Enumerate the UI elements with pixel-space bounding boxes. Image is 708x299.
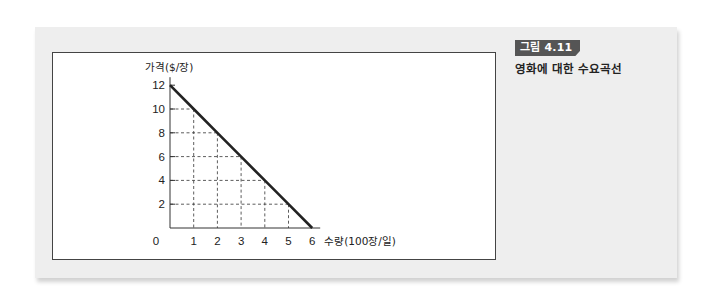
x-tick-label: 6 [309, 235, 315, 247]
chart-frame: 246810120123456 가격($/장) 수량(100장/일) [52, 52, 496, 260]
x-tick-label: 3 [238, 235, 244, 247]
x-axis-title: 수량(100장/일) [324, 235, 396, 247]
y-tick-label: 6 [159, 151, 165, 163]
y-axis-title: 가격($/장) [145, 61, 193, 73]
y-tick-label: 10 [152, 103, 165, 115]
figure-number-badge: 그림 4.11 [515, 40, 580, 56]
x-tick-label: 0 [153, 235, 159, 247]
figure-page: 246810120123456 가격($/장) 수량(100장/일) 그림 4.… [0, 0, 708, 299]
x-tick-label: 1 [190, 235, 196, 247]
y-tick-label: 2 [159, 198, 165, 210]
x-tick-label: 5 [285, 235, 291, 247]
figure-caption: 영화에 대한 수요곡선 [515, 60, 622, 76]
tick-labels: 246810120123456 [152, 79, 315, 247]
dashed-gridlines [170, 109, 289, 228]
demand-curve-chart: 246810120123456 가격($/장) 수량(100장/일) [53, 53, 497, 261]
y-tick-label: 8 [159, 127, 165, 139]
y-tick-label: 4 [159, 174, 166, 186]
x-tick-label: 2 [214, 235, 220, 247]
y-tick-label: 12 [152, 79, 165, 91]
x-tick-label: 4 [262, 235, 269, 247]
axes [170, 77, 320, 228]
